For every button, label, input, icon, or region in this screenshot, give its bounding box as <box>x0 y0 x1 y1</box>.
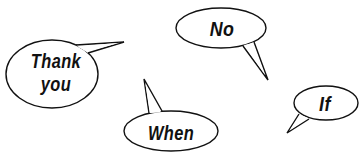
speech-bubble-no: No <box>176 8 268 80</box>
bubble-text-line-1: When <box>148 121 194 144</box>
bubble-text-line-1: No <box>210 17 235 41</box>
speech-bubble-when: When <box>124 79 218 151</box>
speech-bubble-thank-you: Thank you <box>6 40 124 108</box>
speech-bubble-if: If <box>287 86 358 133</box>
bubble-text-line-2: you <box>40 72 71 95</box>
speech-bubbles-canvas: Thank you No When If <box>0 0 363 162</box>
bubble-text-line-1: Thank <box>31 49 82 72</box>
bubble-tail-cover <box>244 44 265 76</box>
bubble-tail-cover <box>290 115 308 130</box>
bubble-text-line-1: If <box>319 92 333 116</box>
